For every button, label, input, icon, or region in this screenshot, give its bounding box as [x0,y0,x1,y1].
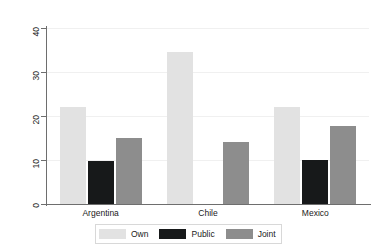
category-label-chile: Chile [158,208,258,218]
bar-argentina-own [60,107,86,204]
bar-mexico-joint [330,126,356,204]
legend-entry-joint: Joint [226,229,276,239]
gridline [47,116,369,117]
y-tick-mark [41,204,47,205]
category-label-argentina: Argentina [51,208,151,218]
bar-argentina-public [88,161,114,204]
x-axis-line [41,204,371,205]
legend-entry-public: Public [159,229,214,239]
legend-label-public: Public [191,229,214,239]
gridline [47,28,369,29]
chart-legend: OwnPublicJoint [95,224,282,244]
bar-chile-own [167,52,193,204]
bar-mexico-public [302,160,328,204]
bar-chile-joint [223,142,249,204]
bar-chart: Thousands of 2002 US$ 010203040 Argentin… [0,0,377,250]
gridline [47,72,369,73]
legend-swatch-joint [226,229,253,239]
plot-area [47,28,369,204]
legend-label-joint: Joint [258,229,276,239]
legend-swatch-own [99,229,126,239]
legend-entry-own: Own [99,229,148,239]
category-label-mexico: Mexico [265,208,365,218]
legend-swatch-public [159,229,186,239]
y-tick-label: 30 [31,71,41,107]
bar-mexico-own [274,107,300,204]
y-tick-label: 20 [31,115,41,151]
y-tick-label: 0 [31,203,41,239]
bar-argentina-joint [116,138,142,204]
y-tick-label: 10 [31,159,41,195]
legend-label-own: Own [131,229,148,239]
y-tick-label: 40 [31,27,41,63]
